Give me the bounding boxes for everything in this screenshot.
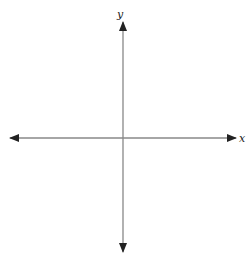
coordinate-plane: x y bbox=[0, 0, 251, 257]
x-axis-label: x bbox=[239, 132, 246, 145]
y-axis-label: y bbox=[116, 8, 124, 21]
